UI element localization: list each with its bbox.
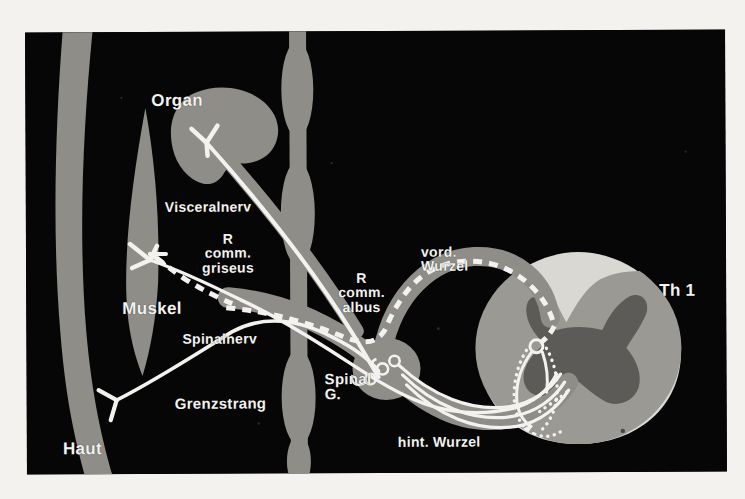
label-organ: Organ	[151, 92, 203, 110]
label-spinalnerv: Spinalnerv	[182, 332, 257, 347]
label-visceralnerv: Visceralnerv	[165, 200, 252, 215]
anatomy-diagram-svg	[25, 29, 727, 474]
label-hint-wurzel: hint. Wurzel	[398, 435, 481, 450]
figure-page: Organ Visceralnerv R comm. griseus Muske…	[0, 0, 745, 499]
label-muskel: Muskel	[122, 300, 182, 318]
illustration-plate: Organ Visceralnerv R comm. griseus Muske…	[25, 29, 727, 474]
label-vord-wurzel: vord. Wurzel	[421, 245, 469, 274]
label-haut: Haut	[63, 440, 102, 457]
label-th1: Th 1	[659, 282, 695, 299]
cord-speck	[621, 429, 625, 433]
label-grenzstrang: Grenzstrang	[175, 395, 267, 411]
label-r-comm-griseus: R comm. griseus	[202, 232, 254, 275]
label-spinal-g: Spinal G.	[325, 371, 372, 402]
illustration-canvas: Organ Visceralnerv R comm. griseus Muske…	[25, 29, 727, 474]
label-r-comm-albus: R comm. albus	[338, 271, 385, 314]
